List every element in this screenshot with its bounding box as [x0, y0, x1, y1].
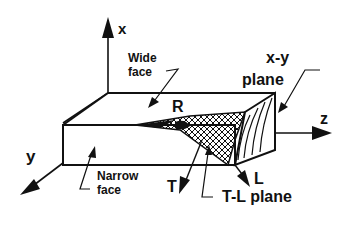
xy-plane-label-line2: plane [242, 71, 284, 88]
xy-plane-label-line1: x-y [266, 49, 289, 66]
wide-face-label-line2: face [128, 65, 152, 79]
x-axis-label: x [118, 20, 127, 37]
z-axis-label: z [320, 110, 328, 127]
narrow-face-label-line2: face [97, 183, 121, 197]
wood-specimen-diagram: x y z R T L Wide face [0, 0, 351, 232]
tl-plane-label: T-L plane [222, 188, 292, 205]
longitudinal-arrow [235, 165, 250, 187]
x-axis-arrow [102, 17, 114, 93]
narrow-face-label-line1: Narrow [97, 169, 139, 183]
xy-plane-leader [278, 70, 320, 113]
z-axis-arrow [275, 126, 332, 140]
radial-direction-label: R [172, 98, 184, 115]
y-axis-label: y [26, 147, 36, 166]
wide-face-label-line1: Wide [128, 51, 157, 65]
tangential-direction-label: T [167, 178, 177, 195]
longitudinal-direction-label: L [254, 170, 264, 187]
